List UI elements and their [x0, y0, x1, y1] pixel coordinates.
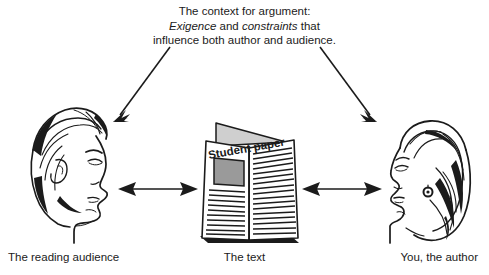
woman-head-profile-icon [390, 121, 470, 243]
text-author-double-arrow-icon [302, 182, 382, 196]
audience-text-double-arrow-icon [118, 182, 198, 196]
context-to-author-arrow-icon [320, 47, 377, 122]
right-node-label: You, the author [400, 250, 478, 264]
diagram-artwork: Student paper [0, 0, 489, 275]
rhetorical-triangle-diagram: The context for argument: Exigence and c… [0, 0, 489, 275]
man-head-profile-icon [31, 108, 107, 243]
student-paper-icon: Student paper [200, 123, 299, 243]
context-to-audience-arrow-icon [113, 47, 170, 122]
